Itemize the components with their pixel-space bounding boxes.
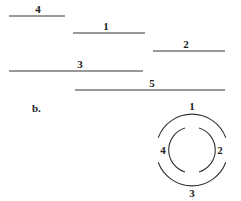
panel-a: 4 1 2 3 5	[9, 3, 225, 90]
inner-arc-4-label: 4	[160, 144, 166, 156]
inner-arc-2-label: 2	[217, 144, 223, 156]
outer-arc-1-label: 1	[189, 100, 195, 112]
inner-arc-4	[169, 128, 185, 172]
panel-b: b. 1 3 4 2	[32, 100, 226, 199]
inner-arc-2	[199, 128, 215, 172]
outer-arc-3	[158, 162, 226, 186]
segment-4-label: 4	[35, 3, 41, 15]
diagram-canvas: 4 1 2 3 5 b. 1 3 4 2	[0, 0, 241, 201]
outer-arc-3-label: 3	[189, 187, 195, 199]
panel-b-label: b.	[32, 102, 41, 114]
segment-2-label: 2	[183, 38, 189, 50]
segment-5-label: 5	[149, 77, 155, 89]
segment-1-label: 1	[103, 20, 109, 32]
outer-arc-1	[158, 114, 226, 138]
segment-3-label: 3	[77, 58, 83, 70]
